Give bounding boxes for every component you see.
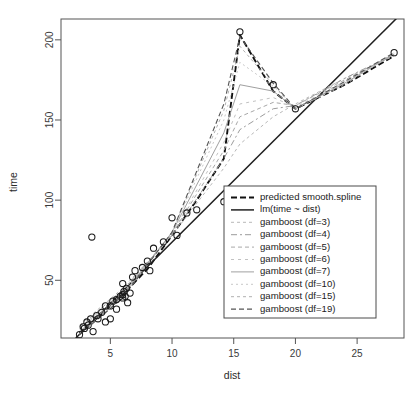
legend-label: gamboost (df=6)	[260, 253, 330, 264]
legend-label: gamboost (df=3)	[260, 216, 330, 227]
legend-label: gamboost (df=5)	[260, 241, 330, 252]
y-tick-label: 50	[44, 274, 55, 286]
legend-label: gamboost (df=7)	[260, 265, 330, 276]
y-tick-label: 100	[44, 191, 55, 208]
legend-label: lm(time ~ dist)	[260, 203, 321, 214]
x-tick-label: 5	[108, 348, 114, 359]
x-tick-label: 15	[228, 348, 240, 359]
legend-label: predicted smooth.spline	[260, 191, 361, 202]
chart-figure: 510152025 50100150200 dist time predicte…	[0, 0, 419, 394]
legend-label: gamboost (df=19)	[260, 303, 335, 314]
y-tick-label: 200	[44, 31, 55, 48]
legend-label: gamboost (df=4)	[260, 228, 330, 239]
x-tick-label: 10	[166, 348, 178, 359]
y-tick-label: 150	[44, 111, 55, 128]
scatter-plot-svg: 510152025 50100150200 dist time predicte…	[0, 0, 419, 394]
legend-label: gamboost (df=10)	[260, 278, 335, 289]
x-axis-title: dist	[224, 369, 240, 381]
legend-label: gamboost (df=15)	[260, 290, 335, 301]
x-tick-label: 20	[290, 348, 302, 359]
y-axis-title: time	[7, 172, 19, 192]
x-tick-label: 25	[352, 348, 364, 359]
